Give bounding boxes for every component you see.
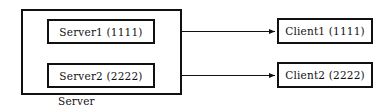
node-server2[interactable]: Server2 (2222) bbox=[47, 63, 155, 88]
node-server1[interactable]: Server1 (1111) bbox=[47, 19, 155, 44]
server-group-label: Server bbox=[58, 95, 95, 107]
diagram-canvas: Server1 (1111) Server2 (2222) Server Cli… bbox=[0, 0, 388, 111]
node-client2[interactable]: Client2 (2222) bbox=[277, 62, 373, 88]
node-client1[interactable]: Client1 (1111) bbox=[277, 18, 373, 44]
